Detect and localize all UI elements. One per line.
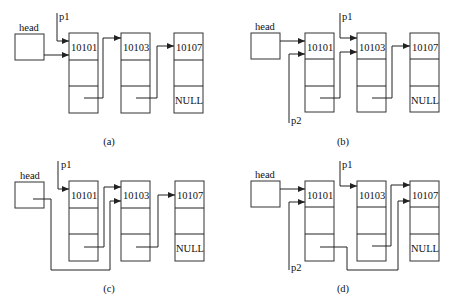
head-box (15, 182, 44, 208)
p2-label: p2 (291, 262, 302, 273)
p2-arrow (289, 202, 305, 270)
node-value: 10107 (176, 42, 202, 53)
node-3: 10107 NULL (410, 33, 439, 112)
node-value: 10103 (123, 42, 149, 53)
panel-d: head p1 p2 10101 10103 10107 NULL (d) (251, 159, 439, 295)
p1-label: p1 (342, 11, 353, 22)
null-label: NULL (411, 243, 439, 254)
node-value: 10107 (412, 42, 438, 53)
null-label: NULL (411, 95, 439, 106)
caption-b: (b) (337, 136, 350, 148)
p1-label: p1 (61, 159, 72, 170)
p1-label: p1 (59, 11, 70, 22)
caption-d: (d) (337, 283, 350, 295)
linked-list-diagram: head p1 10101 10103 10107 NULL (a) (0, 0, 449, 303)
node-3: 10107 NULL (175, 181, 204, 261)
panel-b: head p1 p2 10101 10103 10107 NULL (b) (251, 11, 439, 148)
node-value: 10101 (71, 190, 97, 201)
node-3: 10107 NULL (174, 33, 203, 113)
node-value: 10103 (123, 190, 149, 201)
head-box (251, 181, 280, 207)
node-value: 10101 (307, 42, 333, 53)
null-label: NULL (176, 243, 204, 254)
node-2: 10103 (357, 33, 386, 112)
node-1: 10101 (69, 181, 98, 261)
head-label: head (19, 22, 40, 33)
node-2: 10103 (121, 33, 150, 113)
head-box (15, 34, 44, 60)
panel-c: head p1 10101 10103 10107 NULL (c) (15, 159, 204, 295)
node-2: 10103 (357, 181, 386, 261)
node-1: 10101 (305, 33, 334, 112)
node-3: 10107 NULL (410, 181, 439, 261)
head-label: head (255, 169, 276, 180)
head-label: head (255, 21, 276, 32)
node-value: 10103 (359, 42, 385, 53)
node-value: 10101 (307, 190, 333, 201)
panel-a: head p1 10101 10103 10107 NULL (a) (15, 11, 203, 148)
node-value: 10101 (71, 42, 97, 53)
p2-arrow (289, 54, 305, 123)
head-box (251, 33, 280, 59)
node-1: 10101 (305, 181, 334, 261)
node-2: 10103 (121, 181, 150, 261)
node-value: 10107 (412, 190, 438, 201)
caption-c: (c) (103, 283, 115, 295)
caption-a: (a) (103, 136, 115, 148)
node-value: 10103 (359, 190, 385, 201)
node-1: 10101 (69, 33, 98, 113)
head-label: head (20, 170, 41, 181)
null-label: NULL (175, 95, 203, 106)
node-value: 10107 (177, 190, 203, 201)
p2-label: p2 (291, 115, 302, 126)
p1-label: p1 (342, 159, 353, 170)
